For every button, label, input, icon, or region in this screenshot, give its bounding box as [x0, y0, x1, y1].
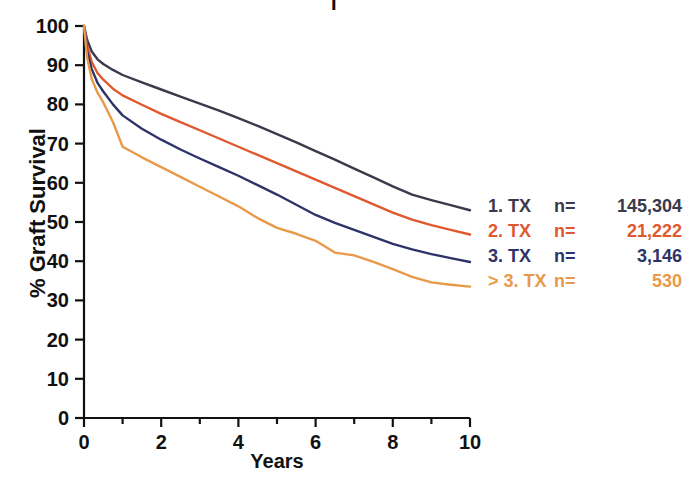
legend-n-prefix: n= — [554, 271, 588, 292]
legend-n-prefix: n= — [554, 246, 588, 267]
chart-canvas: I % Graft Survival Years 010203040506070… — [0, 0, 689, 483]
legend-n-prefix: n= — [554, 196, 588, 217]
y-tick-label: 0 — [13, 408, 69, 428]
x-tick-label: 10 — [450, 432, 490, 452]
y-tick-label: 10 — [13, 369, 69, 389]
legend-label: 3. TX — [488, 246, 554, 267]
y-tick-label: 40 — [13, 251, 69, 271]
series-line--3-tx — [84, 26, 470, 287]
x-tick-label: 0 — [64, 432, 104, 452]
legend-label: 1. TX — [488, 196, 554, 217]
legend-row: 2. TXn=21,222 — [488, 221, 684, 246]
y-tick-label: 30 — [13, 290, 69, 310]
axis-lines — [84, 26, 470, 418]
series-line-1-tx — [84, 26, 470, 210]
y-tick-label: 90 — [13, 55, 69, 75]
legend-row: 3. TXn=3,146 — [488, 246, 684, 271]
y-tick-label: 70 — [13, 134, 69, 154]
x-tick-label: 4 — [218, 432, 258, 452]
x-tick-label: 8 — [373, 432, 413, 452]
y-tick-label: 20 — [13, 330, 69, 350]
x-tick-label: 6 — [296, 432, 336, 452]
legend-n-value: 3,146 — [588, 246, 682, 267]
legend-n-value: 530 — [588, 271, 682, 292]
legend-label: > 3. TX — [488, 271, 554, 292]
legend-row: 1. TXn=145,304 — [488, 196, 684, 221]
x-tick-label: 2 — [141, 432, 181, 452]
y-tick-label: 100 — [13, 16, 69, 36]
y-tick-label: 80 — [13, 94, 69, 114]
legend-n-value: 21,222 — [588, 221, 682, 242]
data-series-group — [84, 26, 470, 287]
legend-label: 2. TX — [488, 221, 554, 242]
x-axis-label: Years — [84, 450, 470, 473]
series-line-2-tx — [84, 26, 470, 235]
y-tick-label: 60 — [13, 173, 69, 193]
legend-n-value: 145,304 — [588, 196, 682, 217]
legend-row: > 3. TXn=530 — [488, 271, 684, 296]
legend-n-prefix: n= — [554, 221, 588, 242]
y-tick-label: 50 — [13, 212, 69, 232]
legend: 1. TXn=145,3042. TXn=21,2223. TXn=3,146>… — [488, 196, 684, 296]
